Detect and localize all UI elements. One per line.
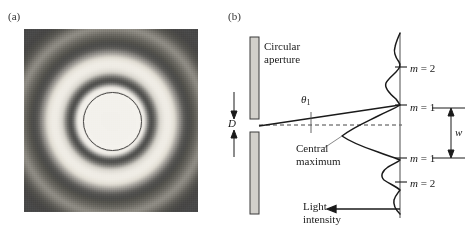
aperture-intensity-diagram (220, 0, 474, 241)
light-intensity-line1: Light (303, 200, 327, 212)
central-maximum-width-arrow (448, 108, 454, 158)
central-maximum-label: Central maximum (296, 142, 341, 167)
photo-vignette (24, 29, 198, 212)
order-equals: = (418, 152, 430, 164)
light-intensity-label: Light intensity (303, 200, 341, 225)
panel-label-a: (a) (8, 10, 20, 22)
central-maximum-line2: maximum (296, 155, 341, 167)
aperture-label: Circular aperture (264, 40, 300, 65)
order-value: 1 (430, 101, 436, 113)
order-equals: = (418, 101, 430, 113)
order-label-top-m1: m = 1 (410, 101, 435, 113)
aperture-label-line1: Circular (264, 40, 300, 52)
aperture-bar-lower (250, 132, 259, 214)
order-equals: = (418, 177, 430, 189)
order-symbol: m (410, 62, 418, 74)
order-value: 2 (430, 177, 436, 189)
airy-diffraction-photograph (24, 29, 198, 212)
theta-subscript: 1 (306, 98, 310, 107)
aperture-diameter-label: D (228, 117, 236, 130)
order-label-bottom-m2: m = 2 (410, 177, 435, 189)
order-value: 1 (430, 152, 436, 164)
order-symbol: m (410, 152, 418, 164)
order-label-bottom-m1: m = 1 (410, 152, 435, 164)
theta-angle-label: θ1 (301, 93, 310, 110)
order-value: 2 (430, 62, 436, 74)
order-symbol: m (410, 101, 418, 113)
order-symbol: m (410, 177, 418, 189)
central-maximum-line1: Central (296, 142, 328, 154)
light-intensity-line2: intensity (303, 213, 341, 225)
figure-container: (a) (b) (0, 0, 474, 241)
order-equals: = (418, 62, 430, 74)
central-width-label: w (455, 126, 462, 139)
order-label-top-m2: m = 2 (410, 62, 435, 74)
intensity-profile-curve (342, 33, 400, 214)
aperture-label-line2: aperture (264, 53, 300, 65)
aperture-bar-upper (250, 37, 259, 119)
